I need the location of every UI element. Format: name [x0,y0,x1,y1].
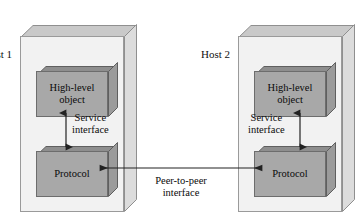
host-2-hlo-label-line2: object [277,94,303,106]
host-1-label: Host 1 [0,48,12,60]
host-2-hlo-label-line1: High-level [268,82,313,94]
host-2-protocol-side-face [326,142,336,197]
host-2-side-face-shape [342,24,355,212]
host-2-service-interface-line1: Service [248,112,285,124]
peer-to-peer-line1: Peer-to-peer [145,175,217,187]
host-1-protocol-side-shape [108,142,118,197]
host-1-hlo-label-line1: High-level [50,82,95,94]
host-1-hlo-label-line2: object [59,94,85,106]
host-2-protocol-label: Protocol [272,168,308,180]
host-1-service-interface-line2: interface [72,124,109,136]
peer-to-peer-interface-label: Peer-to-peer interface [145,175,217,199]
host-1-protocol-front-face: Protocol [36,151,108,197]
peer-to-peer-line2: interface [145,187,217,199]
host-1-hlo-side-shape [108,62,118,117]
host-2-high-level-object-front-face: High-level object [254,71,326,117]
host-1-side-face-shape [124,24,137,212]
host-1-protocol-side-face [108,142,118,197]
host-2-service-interface-line2: interface [248,124,285,136]
host-1-high-level-object-front-face: High-level object [36,71,108,117]
host-2-hlo-side-shape [326,62,336,117]
host-1-service-interface-line1: Service [72,112,109,124]
host-1-protocol-label: Protocol [54,168,90,180]
host-2-service-interface-label: Service interface [248,112,285,136]
host-2-high-level-object-side-face [326,62,336,117]
host-2-protocol-front-face: Protocol [254,151,326,197]
diagram-canvas: Host 1 High-level object [0,0,361,212]
host-2-protocol-side-shape [326,142,336,197]
host-1-side-face [124,24,137,212]
host-2-label: Host 2 [201,48,230,60]
host-1-service-interface-label: Service interface [72,112,109,136]
host-1-high-level-object-side-face [108,62,118,117]
host-2-side-face [342,24,355,212]
